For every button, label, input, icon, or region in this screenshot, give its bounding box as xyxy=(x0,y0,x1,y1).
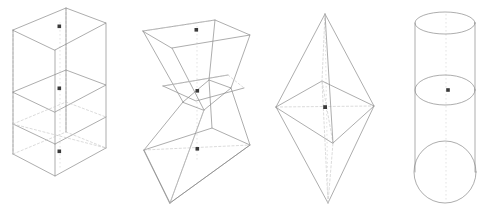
shape2-centroid-marker-waist xyxy=(196,89,200,93)
shape4-centroid-marker xyxy=(446,88,450,92)
figure-background xyxy=(0,0,482,213)
shape2-centroid-marker-top xyxy=(195,28,199,32)
shape1-centroid-marker-top xyxy=(58,25,62,29)
figure-canvas: Wireframe 3D Solids Comparison xyxy=(0,0,482,213)
shape1-centroid-marker-bottom xyxy=(58,150,62,154)
shape1-centroid-marker-middle xyxy=(58,87,62,91)
shape3-centroid-marker xyxy=(323,105,327,109)
shape2-centroid-marker-bottom xyxy=(196,147,200,151)
